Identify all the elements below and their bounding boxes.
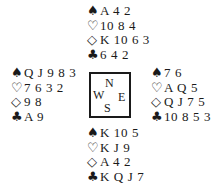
- west-clubs-row: ♣ A 9: [11, 110, 76, 125]
- club-icon: ♣: [87, 48, 100, 63]
- east-diamonds: Q J 7 5: [164, 95, 205, 110]
- spade-icon: ♠: [87, 4, 100, 19]
- west-diamonds-row: ◇ 9 8: [11, 95, 76, 110]
- east-spades: 7 6: [164, 66, 182, 81]
- compass-north-label: N: [105, 77, 114, 89]
- south-hearts: K J 9: [100, 141, 130, 156]
- heart-icon: ♡: [87, 141, 100, 156]
- south-spades: K 10 5: [100, 126, 139, 141]
- north-diamonds-row: ◇ K 10 6 3: [87, 33, 150, 48]
- east-hand: ♠ 7 6 ♡ A Q 5 ◇ Q J 7 5 ♣ 10 8 5 3: [151, 66, 211, 124]
- south-spades-row: ♠ K 10 5: [87, 126, 144, 141]
- north-clubs: 6 4 2: [100, 48, 129, 63]
- east-diamonds-row: ◇ Q J 7 5: [151, 95, 211, 110]
- north-spades: A 4 2: [100, 4, 131, 19]
- heart-icon: ♡: [11, 81, 24, 96]
- diamond-icon: ◇: [11, 95, 24, 110]
- compass-west-label: W: [93, 89, 104, 101]
- west-hand: ♠ Q J 9 8 3 ♡ 7 6 3 2 ◇ 9 8 ♣ A 9: [11, 66, 76, 124]
- west-diamonds: 9 8: [24, 95, 42, 110]
- east-hearts: A Q 5: [164, 81, 198, 96]
- diamond-icon: ◇: [151, 95, 164, 110]
- club-icon: ♣: [87, 170, 100, 185]
- spade-icon: ♠: [11, 66, 24, 81]
- compass-south-label: S: [104, 102, 111, 114]
- south-hand: ♠ K 10 5 ♡ K J 9 ◇ A 4 2 ♣ K Q J 7: [87, 126, 144, 184]
- west-spades-row: ♠ Q J 9 8 3: [11, 66, 76, 81]
- east-clubs-row: ♣ 10 8 5 3: [151, 110, 211, 125]
- west-hearts-row: ♡ 7 6 3 2: [11, 81, 76, 96]
- spade-icon: ♠: [87, 126, 100, 141]
- club-icon: ♣: [151, 110, 164, 125]
- club-icon: ♣: [11, 110, 24, 125]
- compass-east-label: E: [118, 91, 125, 103]
- north-hearts-row: ♡ 10 8 4: [87, 19, 150, 34]
- west-clubs: A 9: [24, 110, 44, 125]
- east-hearts-row: ♡ A Q 5: [151, 81, 211, 96]
- south-diamonds-row: ◇ A 4 2: [87, 155, 144, 170]
- diamond-icon: ◇: [87, 155, 100, 170]
- east-clubs: 10 8 5 3: [164, 110, 211, 125]
- north-spades-row: ♠ A 4 2: [87, 4, 150, 19]
- south-diamonds: A 4 2: [100, 155, 131, 170]
- spade-icon: ♠: [151, 66, 164, 81]
- north-hand: ♠ A 4 2 ♡ 10 8 4 ◇ K 10 6 3 ♣ 6 4 2: [87, 4, 150, 62]
- north-clubs-row: ♣ 6 4 2: [87, 48, 150, 63]
- north-diamonds: K 10 6 3: [100, 33, 150, 48]
- south-clubs: K Q J 7: [100, 170, 144, 185]
- diamond-icon: ◇: [87, 33, 100, 48]
- north-hearts: 10 8 4: [100, 19, 136, 34]
- east-spades-row: ♠ 7 6: [151, 66, 211, 81]
- compass-box: N W E S: [89, 72, 131, 118]
- heart-icon: ♡: [151, 81, 164, 96]
- south-clubs-row: ♣ K Q J 7: [87, 170, 144, 185]
- west-spades: Q J 9 8 3: [24, 66, 76, 81]
- west-hearts: 7 6 3 2: [24, 81, 64, 96]
- heart-icon: ♡: [87, 19, 100, 34]
- south-hearts-row: ♡ K J 9: [87, 141, 144, 156]
